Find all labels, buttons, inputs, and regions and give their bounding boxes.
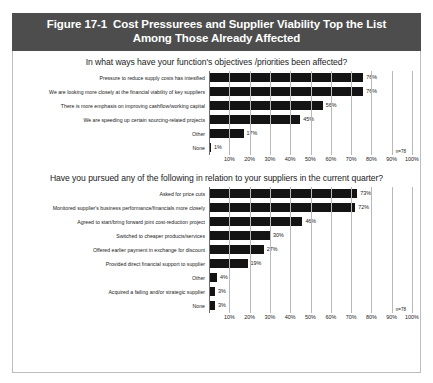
bar-value-label: 72% <box>355 203 369 212</box>
bar-row: Asked for price cuts73% <box>21 187 412 201</box>
chart-1-xaxis: 10%20%30%40%50%60%70%80%90%100%n=78 <box>209 155 412 167</box>
bar-row: Offered earlier payment in exchange for … <box>21 243 412 257</box>
bar-category-label: Pressure to reduce supply costs has inte… <box>21 75 209 82</box>
bar-value-label: 45% <box>300 115 314 124</box>
chart-2-xaxis: 10%20%30%40%50%60%70%80%90%100%n=78 <box>209 313 412 325</box>
bar-track: 3% <box>209 285 412 299</box>
bar-row: Other17% <box>21 127 412 141</box>
bar-value-label: 3% <box>215 287 226 296</box>
bar-category-label: Switched to cheaper products/services <box>21 233 209 240</box>
bar-track: 72% <box>209 201 412 215</box>
bar-track: 76% <box>209 85 412 99</box>
figure-header: Figure 17-1Cost Pressurees and Supplier … <box>12 13 421 51</box>
x-tick-label: 60% <box>325 314 336 320</box>
bar-category-label: Acquired a failing and/or strategic supp… <box>21 289 209 296</box>
bar <box>209 259 248 268</box>
bar <box>209 217 302 226</box>
x-tick-label: 30% <box>264 156 275 162</box>
bar-value-label: 73% <box>357 189 371 198</box>
bar-value-label: 56% <box>323 101 337 110</box>
bar-row: None3% <box>21 299 412 313</box>
x-tick-label: 10% <box>224 156 235 162</box>
chart-2-rows: Asked for price cuts73%Monitored supplie… <box>21 187 412 313</box>
sample-size-annotation: n=78 <box>396 307 406 323</box>
gridline <box>412 71 413 155</box>
bar-track: 56% <box>209 99 412 113</box>
bar-row: Other4% <box>21 271 412 285</box>
x-tick-label: 80% <box>366 314 377 320</box>
figure-number: Figure 17-1 <box>47 18 107 30</box>
bar <box>209 129 244 138</box>
chart-2-question: Have you pursued any of the following in… <box>13 167 420 187</box>
gridline <box>412 187 413 313</box>
bar <box>209 189 357 198</box>
x-tick-label: 40% <box>285 314 296 320</box>
bar-row: Monitored supplier's business performanc… <box>21 201 412 215</box>
bar-category-label: We are looking more closely at the finan… <box>21 89 209 96</box>
x-tick-label: 20% <box>244 156 255 162</box>
figure-title-line2: Among Those Already Affected <box>20 32 413 46</box>
chart-2-plot: Asked for price cuts73%Monitored supplie… <box>21 187 412 325</box>
figure-container: Figure 17-1Cost Pressurees and Supplier … <box>12 13 421 368</box>
chart-panel-2: Have you pursued any of the following in… <box>13 167 420 325</box>
bar-category-label: None <box>21 145 209 152</box>
x-tick-label: 100% <box>405 314 419 320</box>
bar-category-label: None <box>21 303 209 310</box>
bar-row: We are looking more closely at the finan… <box>21 85 412 99</box>
bar-track: 3% <box>209 299 412 313</box>
x-tick-label: 80% <box>366 156 377 162</box>
bar-value-label: 4% <box>217 273 228 282</box>
x-tick-label: 10% <box>224 314 235 320</box>
bar-value-label: 17% <box>244 129 258 138</box>
bar-row: None1% <box>21 141 412 155</box>
bar-track: 17% <box>209 127 412 141</box>
bar-category-label: Asked for price cuts <box>21 191 209 198</box>
x-tick-label: 20% <box>244 314 255 320</box>
sample-size-annotation: n=78 <box>396 149 406 165</box>
x-tick-label: 50% <box>305 314 316 320</box>
bar-row: There is more emphasis on improving cash… <box>21 99 412 113</box>
x-tick-label: 50% <box>305 156 316 162</box>
bar-value-label: 27% <box>264 245 278 254</box>
bar-row: Provided direct financial support to sup… <box>21 257 412 271</box>
x-tick-label: 30% <box>264 314 275 320</box>
bar-category-label: Other <box>21 131 209 138</box>
x-tick-label: 100% <box>405 156 419 162</box>
bar <box>209 115 300 124</box>
figure-body: In what ways have your function's object… <box>12 51 421 373</box>
bar-track: 19% <box>209 257 412 271</box>
bar-category-label: Agreed to start/bring forward joint cost… <box>21 219 209 226</box>
bar-value-label: 76% <box>363 87 377 96</box>
bar-value-label: 3% <box>215 301 226 310</box>
bar-category-label: We are speeding up certain sourcing-rela… <box>21 117 209 124</box>
bar-value-label: 46% <box>302 217 316 226</box>
bar-row: Agreed to start/bring forward joint cost… <box>21 215 412 229</box>
bar <box>209 203 355 212</box>
chart-1-rows: Pressure to reduce supply costs has inte… <box>21 71 412 155</box>
bar <box>209 273 217 282</box>
x-tick-label: 70% <box>346 314 357 320</box>
bar <box>209 87 363 96</box>
bar-category-label: Other <box>21 275 209 282</box>
figure-title-line1: Cost Pressurees and Supplier Viability T… <box>113 18 386 30</box>
bar <box>209 101 323 110</box>
bar <box>209 245 264 254</box>
chart-1-plot: Pressure to reduce supply costs has inte… <box>21 71 412 167</box>
x-tick-label: 70% <box>346 156 357 162</box>
bar <box>209 231 270 240</box>
bar-track: 46% <box>209 215 412 229</box>
bar-value-label: 1% <box>211 143 222 152</box>
bar-track: 1% <box>209 141 412 155</box>
bar-row: Acquired a failing and/or strategic supp… <box>21 285 412 299</box>
bar <box>209 73 363 82</box>
bar-row: Pressure to reduce supply costs has inte… <box>21 71 412 85</box>
bar-track: 73% <box>209 187 412 201</box>
bar-value-label: 19% <box>248 259 262 268</box>
bar-track: 45% <box>209 113 412 127</box>
bar-row: We are speeding up certain sourcing-rela… <box>21 113 412 127</box>
bar-track: 4% <box>209 271 412 285</box>
bar-category-label: Monitored supplier's business performanc… <box>21 205 209 212</box>
bar-track: 30% <box>209 229 412 243</box>
bar-category-label: There is more emphasis on improving cash… <box>21 103 209 110</box>
bar-value-label: 30% <box>270 231 284 240</box>
